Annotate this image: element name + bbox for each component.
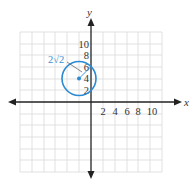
y-tick-label: 10 xyxy=(79,39,90,50)
axes xyxy=(14,24,176,174)
coordinate-plane: x y 2 4 6 8 10 2 4 6 8 10 2√2 xyxy=(0,0,193,180)
x-tick-label: 2 xyxy=(100,106,105,117)
y-tick-label: 4 xyxy=(84,73,90,84)
x-axis-label: x xyxy=(183,96,189,108)
y-axis-label: y xyxy=(86,6,92,18)
x-axis-right-arrow-icon xyxy=(174,99,182,106)
y-tick-label: 8 xyxy=(84,50,89,61)
radius-label: 2√2 xyxy=(48,54,64,65)
y-axis-up-arrow-icon xyxy=(88,18,95,26)
x-tick-label: 6 xyxy=(124,106,129,117)
axis-arrows xyxy=(8,18,182,179)
y-axis-down-arrow-icon xyxy=(88,171,95,179)
x-tick-labels: 2 4 6 8 10 xyxy=(100,106,157,117)
x-tick-label: 4 xyxy=(112,106,118,117)
x-axis-left-arrow-icon xyxy=(8,99,16,106)
y-tick-labels: 2 4 6 8 10 xyxy=(79,39,90,96)
x-tick-label: 8 xyxy=(135,106,140,117)
x-tick-label: 10 xyxy=(147,106,158,117)
